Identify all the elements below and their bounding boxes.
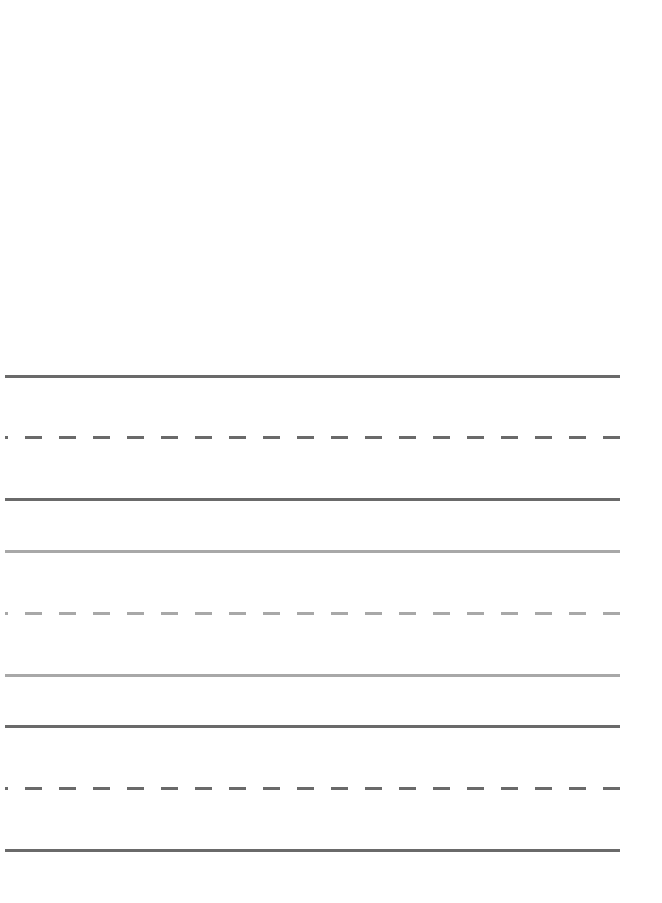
top-line: [5, 375, 620, 378]
midline-dashed: [5, 436, 620, 439]
baseline: [5, 674, 620, 677]
baseline: [5, 498, 620, 501]
baseline: [5, 849, 620, 852]
practice-sheet: [0, 0, 662, 903]
midline-dashed: [5, 612, 620, 615]
top-line: [5, 725, 620, 728]
midline-dashed: [5, 787, 620, 790]
top-line: [5, 550, 620, 553]
